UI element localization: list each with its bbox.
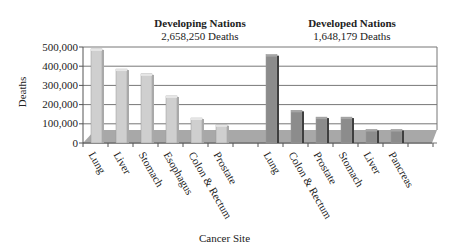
bar-side xyxy=(202,119,204,143)
developing-deaths-total: 2,658,250 Deaths xyxy=(130,30,270,43)
developed-deaths-total: 1,648,179 Deaths xyxy=(282,30,422,43)
chart: Developing Nations 2,658,250 Deaths Deve… xyxy=(0,0,454,252)
bar-side xyxy=(227,126,229,143)
bar-side xyxy=(152,75,154,143)
bar-top xyxy=(391,130,402,132)
bar-side xyxy=(377,131,379,143)
bar-developing-3 xyxy=(166,96,177,143)
developed-title-label: Developed Nations xyxy=(282,17,422,30)
bar-side xyxy=(102,50,104,143)
ytick-400000: 400,000 xyxy=(8,60,78,72)
bar-developing-1 xyxy=(116,69,127,143)
ytick-0: 0 xyxy=(8,137,78,149)
bar-developed-5 xyxy=(391,130,402,143)
bar-side xyxy=(402,131,404,143)
bar-top xyxy=(116,69,127,71)
bar-top xyxy=(366,130,377,132)
bar-developed-3 xyxy=(341,117,352,143)
developing-title-label: Developing Nations xyxy=(130,17,270,30)
ytick-500000: 500,000 xyxy=(8,41,78,53)
developing-nations-title: Developing Nations 2,658,250 Deaths xyxy=(130,17,270,43)
y-axis-label: Deaths xyxy=(16,72,28,112)
bar-top xyxy=(191,118,202,120)
bar-top xyxy=(316,117,327,119)
ytick-100000: 100,000 xyxy=(8,117,78,129)
bar-top xyxy=(216,125,227,127)
bar-side xyxy=(302,111,304,143)
bar-developing-4 xyxy=(191,118,202,143)
bar-side xyxy=(127,70,129,143)
bar-top xyxy=(266,55,277,57)
floor xyxy=(83,130,437,143)
bar-developing-0 xyxy=(91,49,102,143)
bar-side xyxy=(352,118,354,143)
bar-developing-2 xyxy=(141,74,152,143)
bar-top xyxy=(91,49,102,51)
bar-developed-4 xyxy=(366,130,377,143)
x-axis-label: Cancer Site xyxy=(199,232,250,244)
bar-top xyxy=(341,117,352,119)
bar-top xyxy=(166,96,177,98)
bar-side xyxy=(327,118,329,143)
bar-side xyxy=(177,97,179,143)
bar-developed-0 xyxy=(266,55,277,143)
bar-top xyxy=(141,74,152,76)
developed-nations-title: Developed Nations 1,648,179 Deaths xyxy=(282,17,422,43)
bar-developed-1 xyxy=(291,110,302,143)
bar-top xyxy=(291,110,302,112)
bar-side xyxy=(277,56,279,143)
bar-developed-2 xyxy=(316,117,327,143)
bar-developing-5 xyxy=(216,125,227,143)
